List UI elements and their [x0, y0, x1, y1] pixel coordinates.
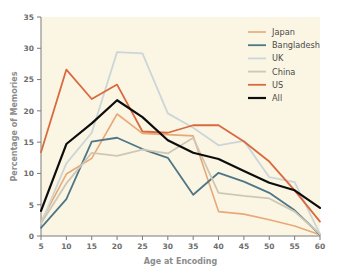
y-axis-title: Percentage of Memories	[10, 71, 19, 181]
x-tick-label: 10	[61, 242, 71, 251]
series-line-japan: Japan	[41, 114, 320, 235]
y-tick-label: 35	[24, 13, 34, 22]
x-tick-label: 30	[163, 242, 173, 251]
y-tick-label: 15	[24, 138, 34, 147]
x-tick-label: 15	[87, 242, 97, 251]
y-tick-label: 10	[24, 169, 34, 178]
x-tick-label: 25	[137, 242, 147, 251]
y-axis: 05101520253035	[24, 13, 41, 241]
y-tick-label: 25	[24, 75, 34, 84]
x-tick-label: 35	[188, 242, 198, 251]
x-tick-label: 50	[264, 242, 274, 251]
x-tick-label: 20	[112, 242, 122, 251]
legend: JapanBangladeshUKChinaUSAll	[248, 27, 320, 103]
x-axis-title: Age at Encoding	[144, 257, 218, 266]
legend-label-china: China	[272, 67, 295, 77]
y-tick-label: 5	[29, 201, 34, 210]
x-tick-label: 40	[213, 242, 223, 251]
legend-label-us: US	[272, 80, 283, 90]
legend-label-all: All	[272, 93, 282, 103]
x-tick-label: 60	[315, 242, 325, 251]
chart-container: 0510152025303551015202530354045505560Age…	[0, 0, 340, 278]
legend-label-japan: Japan	[271, 27, 295, 37]
line-chart: 0510152025303551015202530354045505560Age…	[0, 0, 340, 278]
legend-label-uk: UK	[272, 53, 284, 63]
x-tick-label: 5	[38, 242, 43, 251]
legend-label-bangladesh: Bangladesh	[272, 40, 320, 50]
y-tick-label: 0	[29, 232, 34, 241]
x-tick-label: 45	[239, 242, 249, 251]
y-tick-label: 30	[24, 44, 34, 53]
x-axis: 51015202530354045505560	[38, 236, 325, 251]
x-tick-label: 55	[289, 242, 299, 251]
series-line-all: All	[41, 100, 320, 211]
y-tick-label: 20	[24, 107, 34, 116]
